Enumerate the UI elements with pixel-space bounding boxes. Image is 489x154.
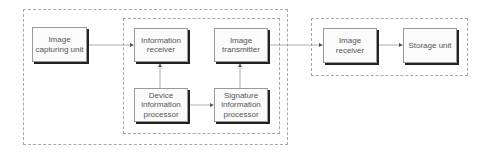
storage-unit-node: Storage unit	[403, 28, 457, 63]
information-receiver-node: Information receiver	[134, 28, 188, 62]
device-information-processor-node: Device information processor	[134, 88, 188, 122]
image-receiver-node: Image receiver	[323, 28, 377, 63]
signature-information-processor-node: Signature information processor	[214, 88, 268, 122]
image-transmitter-node: Image transmitter	[214, 28, 268, 62]
connector-lines	[0, 0, 489, 154]
image-capturing-unit-node: Image capturing unit	[32, 27, 87, 62]
